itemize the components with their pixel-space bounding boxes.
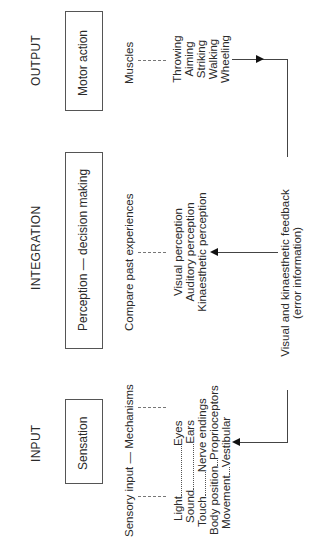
- motor-action-box: Motor action: [65, 11, 103, 111]
- pair-body-position: Body positionProprioceptors: [208, 395, 220, 535]
- compare-label: Compare past experiences: [124, 194, 136, 331]
- header-input: INPUT: [30, 425, 42, 463]
- sensory-input-label: Sensory input — Mechanisms: [124, 384, 136, 537]
- sensory-input-connector: [138, 496, 166, 497]
- feedback-label-line2: (error information): [291, 160, 303, 386]
- feedback-label-line1: Visual and kinaesthetic feedback: [279, 160, 291, 386]
- perception-auditory: Auditory perception: [184, 187, 196, 317]
- feedback-label: Visual and kinaesthetic feedback (error …: [279, 160, 303, 386]
- action-throwing: Throwing: [171, 32, 183, 86]
- action-wheeling: Wheeling: [219, 32, 231, 86]
- perception-types-list: Visual perception Auditory perception Ki…: [172, 187, 208, 317]
- output-actions-list: Throwing Aiming Striking Walking Wheelin…: [171, 32, 231, 86]
- perception-box: Perception — decision making: [65, 152, 103, 349]
- header-output: OUTPUT: [30, 35, 42, 86]
- action-walking: Walking: [207, 32, 219, 86]
- sensation-box: Sensation: [65, 399, 103, 484]
- feedback-line-right-lower: [287, 390, 288, 442]
- sensation-label: Sensation: [77, 417, 89, 470]
- muscles-connector: [138, 60, 166, 61]
- pair-light: LightEyes: [172, 395, 184, 535]
- action-striking: Striking: [195, 32, 207, 86]
- perception-kinaesthetic: Kinaesthetic perception: [196, 187, 208, 317]
- perception-label: Perception — decision making: [77, 169, 89, 331]
- arrow-into-perception-icon: [210, 248, 218, 256]
- pair-movement: MovementVestibular: [220, 395, 232, 535]
- pair-sound: SoundEars: [184, 395, 196, 535]
- feedback-line-perception: [218, 252, 278, 253]
- arrow-into-input-icon: [232, 438, 240, 446]
- action-aiming: Aiming: [183, 32, 195, 86]
- mechanisms-connector: [138, 407, 166, 408]
- perception-visual: Visual perception: [172, 187, 184, 317]
- pair-touch: TouchNerve endings: [196, 395, 208, 535]
- feedback-line-right-upper: [287, 59, 288, 157]
- header-integration: INTEGRATION: [30, 206, 42, 290]
- sensory-pairs-list: LightEyes SoundEars TouchNerve endings B…: [172, 395, 232, 535]
- compare-connector: [138, 252, 166, 253]
- feedback-line-bottom: [238, 442, 288, 443]
- arrow-into-output-icon: [256, 55, 264, 63]
- muscles-label: Muscles: [124, 42, 136, 84]
- motor-action-label: Motor action: [77, 30, 89, 96]
